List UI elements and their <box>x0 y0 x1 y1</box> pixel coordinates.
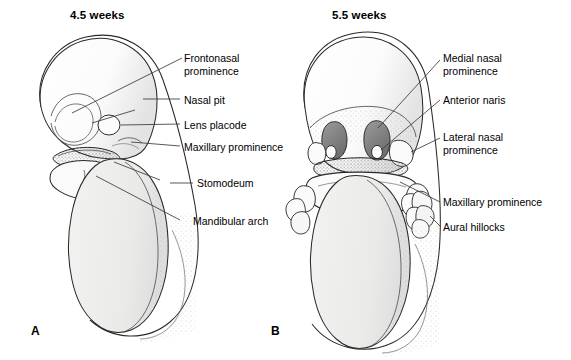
panel-a-artwork <box>40 28 200 345</box>
label-lateral-nasal-prominence: Lateral nasal prominence <box>443 131 503 156</box>
panel-a-title: 4.5 weeks <box>70 9 125 21</box>
label-mandibular-arch: Mandibular arch <box>193 215 268 228</box>
label-lens-placode: Lens placode <box>184 119 246 132</box>
label-frontonasal-prominence: Frontonasal prominence <box>184 52 239 77</box>
label-maxillary-prominence-b: Maxillary prominence <box>443 196 542 209</box>
label-nasal-pit: Nasal pit <box>184 94 225 107</box>
panel-b-artwork <box>286 26 445 358</box>
label-medial-nasal-prominence: Medial nasal prominence <box>443 52 502 77</box>
panel-a-letter: A <box>31 324 40 338</box>
label-maxillary-prominence: Maxillary prominence <box>184 141 283 154</box>
panel-b-letter: B <box>271 324 280 338</box>
label-aural-hillocks: Aural hillocks <box>443 221 505 234</box>
embryology-figure: 4.5 weeks 5.5 weeks A B Frontonasal prom… <box>0 0 571 360</box>
label-stomodeum: Stomodeum <box>197 177 254 190</box>
panel-b-title: 5.5 weeks <box>332 9 387 21</box>
anterior-naris-right <box>372 145 383 158</box>
label-anterior-naris: Anterior naris <box>443 94 505 107</box>
anterior-naris-left <box>326 146 336 159</box>
